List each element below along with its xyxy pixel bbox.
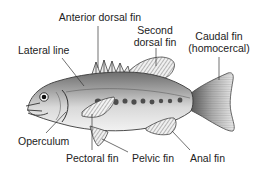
leader-pelvic-fin [102,139,128,152]
label-anterior-dorsal-fin: Anterior dorsal fin [59,11,141,23]
label-caudal-fin-line2: (homocercal) [188,42,249,54]
label-second-dorsal-fin-line2: dorsal fin [134,36,177,48]
label-second-dorsal-fin: Second dorsal fin [134,24,177,48]
caudal-fin [190,73,234,131]
leader-anal-fin [172,131,190,150]
label-second-dorsal-fin-line1: Second [134,24,177,36]
label-operculum: Operculum [18,135,69,147]
label-caudal-fin: Caudal fin (homocercal) [188,30,249,54]
label-pectoral-fin: Pectoral fin [66,152,119,164]
label-pelvic-fin: Pelvic fin [132,152,174,164]
label-caudal-fin-line1: Caudal fin [188,30,249,42]
fish-anatomy-diagram: Anterior dorsal fin Second dorsal fin Ca… [0,0,260,174]
label-lateral-line: Lateral line [18,44,69,56]
label-anal-fin: Anal fin [190,152,225,164]
fish-illustration [0,0,260,174]
